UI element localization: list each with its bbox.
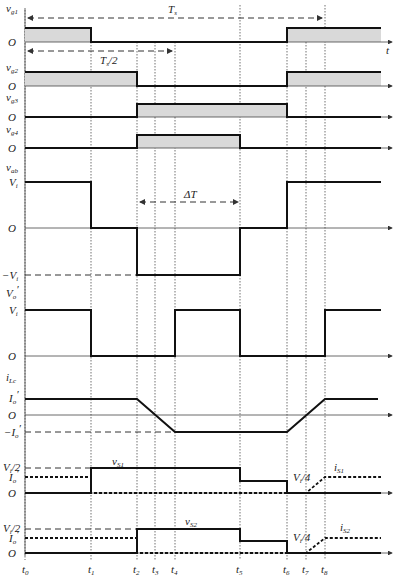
svg-text:t: t	[386, 44, 390, 56]
svg-text:iS2: iS2	[340, 521, 351, 535]
svg-text:Ts/2: Ts/2	[100, 54, 118, 68]
svg-text:t2: t2	[133, 563, 140, 577]
svg-text:vg1: vg1	[6, 2, 18, 16]
svg-text:vg3: vg3	[6, 91, 18, 105]
svg-text:Vi/4: Vi/4	[293, 531, 311, 545]
svg-text:t6: t6	[283, 563, 290, 577]
svg-text:O: O	[8, 36, 16, 48]
svg-text:O: O	[8, 222, 16, 234]
svg-text:vg2: vg2	[6, 61, 18, 75]
trace-vg1: vg1 O t Ts Ts/2	[6, 2, 392, 68]
time-tick-labels: t0 t1 t2 t3 t4 t5 t6 t7 t8	[22, 563, 328, 577]
svg-text:vab: vab	[6, 161, 18, 175]
svg-text:O: O	[8, 350, 16, 362]
timing-diagram: vg1 O t Ts Ts/2 vg2 O vg3 O vg4 O	[0, 0, 396, 584]
trace-vg2: vg2 O	[6, 61, 392, 92]
trace-vS2: Vi/2 Io′ O vS2 Vi/4 iS2	[3, 515, 392, 559]
svg-text:−Io′: −Io′	[4, 422, 22, 440]
svg-text:t1: t1	[88, 563, 95, 577]
svg-text:O: O	[8, 487, 16, 499]
svg-text:iS1: iS1	[334, 461, 344, 475]
trace-vg3: vg3 O	[6, 91, 392, 123]
svg-text:t8: t8	[321, 563, 328, 577]
svg-text:t4: t4	[171, 563, 178, 577]
svg-text:Ts: Ts	[168, 3, 177, 17]
svg-text:Vi/4: Vi/4	[293, 471, 311, 485]
svg-text:Io′: Io′	[8, 388, 19, 406]
svg-text:t3: t3	[152, 563, 159, 577]
trace-vo: Vo′ Vi O	[6, 283, 392, 362]
svg-text:O: O	[8, 142, 16, 154]
svg-text:t5: t5	[236, 563, 243, 577]
svg-text:−Vi: −Vi	[2, 269, 18, 283]
svg-text:vg4: vg4	[6, 123, 18, 137]
trace-vab: vab Vi O −Vi ΔT	[2, 161, 392, 283]
svg-text:Vo′: Vo′	[6, 283, 19, 301]
svg-text:t7: t7	[302, 563, 309, 577]
svg-text:ΔT: ΔT	[183, 188, 197, 200]
svg-text:vS2: vS2	[185, 515, 197, 529]
trace-iLc: iLc Io′ O −Io′	[4, 371, 392, 440]
svg-text:Vi: Vi	[9, 176, 18, 190]
svg-text:O: O	[8, 547, 16, 559]
svg-text:vS1: vS1	[112, 455, 124, 469]
trace-vS1: Vi/2 Io′ O vS1 Vi/4 iS1	[3, 455, 392, 499]
svg-text:Vi: Vi	[9, 304, 18, 318]
svg-text:O: O	[8, 111, 16, 123]
svg-text:iLc: iLc	[6, 371, 17, 385]
svg-text:t0: t0	[22, 563, 29, 577]
trace-vg4: vg4 O	[6, 123, 392, 154]
svg-text:O: O	[8, 409, 16, 421]
